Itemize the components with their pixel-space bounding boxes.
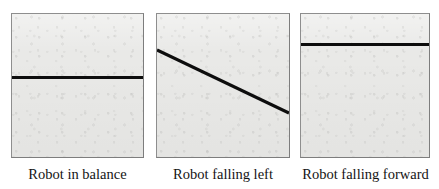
robot-balance-figure: Robot in balance Robot falling left Robo… bbox=[0, 0, 439, 189]
panel-robot-falling-left bbox=[156, 13, 290, 158]
panel-robot-in-balance bbox=[11, 13, 144, 158]
caption-robot-in-balance: Robot in balance bbox=[5, 163, 150, 185]
caption-robot-falling-forward: Robot falling forward bbox=[294, 163, 437, 185]
paper-grain-texture bbox=[301, 14, 429, 157]
robot-body-line-diagonal bbox=[157, 14, 289, 157]
robot-body-line-horizontal bbox=[301, 43, 429, 46]
panel-robot-falling-forward bbox=[300, 13, 430, 158]
robot-body-line-horizontal bbox=[12, 76, 143, 79]
caption-robot-falling-left: Robot falling left bbox=[150, 163, 296, 185]
paper-grain-texture bbox=[12, 14, 143, 157]
